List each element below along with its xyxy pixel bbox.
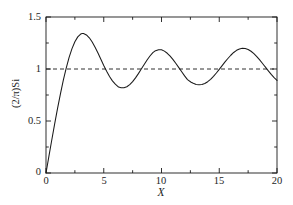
xtick-label-0: 0 xyxy=(36,175,56,186)
ytick-label-1_5: 1.5 xyxy=(14,11,41,22)
plot-border xyxy=(46,17,277,173)
series-line-sine-integral xyxy=(46,33,277,173)
chart-figure: 1.5 1 0.5 0 0 5 10 15 20 X (2/π)Si xyxy=(0,0,293,205)
axis-ticks xyxy=(46,17,277,173)
xtick-label-20: 20 xyxy=(267,175,287,186)
x-axis-title: X xyxy=(131,186,191,198)
data-curve xyxy=(46,33,277,173)
plot-frame xyxy=(46,17,277,173)
xtick-label-5: 5 xyxy=(94,175,114,186)
xtick-label-10: 10 xyxy=(151,175,171,186)
y-axis-title: (2/π)Si xyxy=(10,64,21,124)
xtick-label-15: 15 xyxy=(209,175,229,186)
